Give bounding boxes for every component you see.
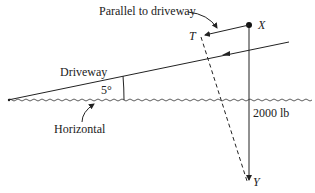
force-diagram: 5° Parallel to driveway X T Y Driveway H… <box>0 0 315 193</box>
driveway-label: Driveway <box>60 65 107 79</box>
parallel-vector <box>205 25 249 35</box>
point-y-label: Y <box>253 175 261 189</box>
perpendicular-dashed-line <box>201 37 247 181</box>
horizontal-label: Horizontal <box>54 122 106 136</box>
horizontal-leader <box>82 104 94 122</box>
driveway-start-dot <box>8 99 10 101</box>
angle-arc <box>123 76 124 100</box>
driveway-line <box>8 42 289 100</box>
point-t-label: T <box>189 29 197 43</box>
parallel-label: Parallel to driveway <box>99 4 196 18</box>
horizontal-line <box>8 99 312 101</box>
weight-label: 2000 lb <box>253 106 289 120</box>
point-x-label: X <box>257 18 266 32</box>
angle-label: 5° <box>101 83 112 97</box>
